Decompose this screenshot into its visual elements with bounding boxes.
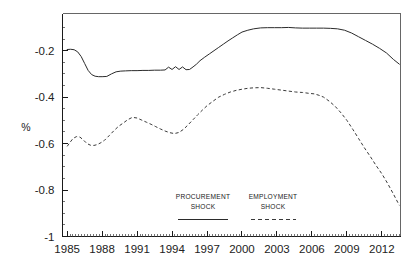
x-axis: 1985198819911994199720002003200620092012: [54, 231, 399, 255]
legend-entry-employment-line2: SHOCK: [261, 203, 286, 210]
y-tick-label: -1: [44, 231, 54, 243]
line-chart: -0.2-0.4-0.6-0.8-1 198519881991199419972…: [0, 0, 418, 266]
series-line-solid: [67, 27, 399, 76]
x-tick-label: 1997: [194, 243, 220, 255]
legend-entry-employment-line1: EMPLOYMENT: [249, 193, 298, 200]
legend-entry-procurement-line1: PROCUREMENT: [176, 193, 230, 200]
y-tick-label: -0.4: [35, 91, 55, 103]
y-tick-label: -0.2: [35, 45, 55, 57]
series-group: [67, 27, 399, 205]
y-axis-title: %: [21, 121, 30, 133]
legend-entry-procurement-line2: SHOCK: [191, 203, 216, 210]
x-tick-label: 2012: [369, 243, 395, 255]
x-tick-label: 1988: [89, 243, 115, 255]
x-tick-label: 2006: [299, 243, 325, 255]
chart-legend: PROCUREMENT SHOCK EMPLOYMENT SHOCK: [176, 193, 298, 220]
x-tick-label: 2009: [334, 243, 360, 255]
x-tick-label: 2000: [229, 243, 255, 255]
x-tick-label: 1994: [159, 243, 185, 255]
y-tick-label: -0.6: [35, 138, 55, 150]
x-tick-label: 2003: [264, 243, 290, 255]
x-tick-label: 1991: [124, 243, 150, 255]
y-tick-label: -0.8: [35, 184, 55, 196]
series-line-dashed: [67, 88, 399, 206]
chart-container: -0.2-0.4-0.6-0.8-1 198519881991199419972…: [0, 0, 418, 266]
x-tick-label: 1985: [54, 243, 80, 255]
